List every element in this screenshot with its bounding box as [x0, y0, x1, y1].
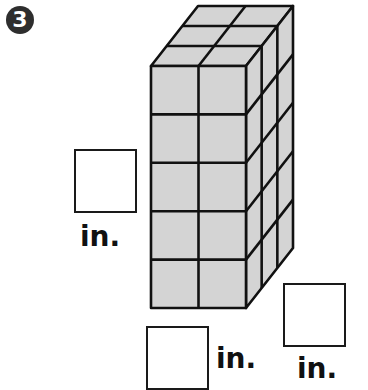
height-answer-box[interactable] [74, 149, 137, 213]
depth-answer-box[interactable] [283, 283, 346, 347]
depth-unit-label: in. [297, 352, 337, 385]
height-unit-label: in. [80, 220, 120, 253]
width-answer-box[interactable] [146, 326, 209, 390]
width-unit-label: in. [216, 342, 256, 375]
